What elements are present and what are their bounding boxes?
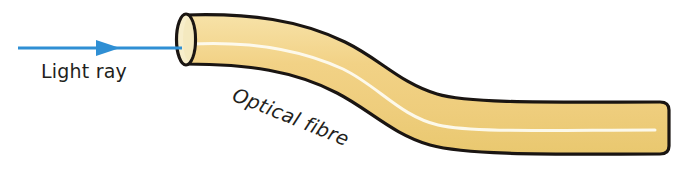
optical-fibre-label: Optical fibre [229, 83, 352, 151]
diagram-canvas: Light ray Optical fibre [0, 0, 681, 172]
optical-fibre-body [186, 15, 669, 154]
optical-fibre-diagram: Light ray Optical fibre [0, 0, 681, 172]
fibre-end-inner-shade [183, 19, 194, 61]
light-ray-arrowhead [96, 40, 120, 56]
fibre-outline-path [186, 15, 669, 154]
light-ray-arrow [18, 40, 182, 56]
light-ray-label: Light ray [41, 60, 127, 82]
fibre-entry-face [177, 14, 196, 65]
